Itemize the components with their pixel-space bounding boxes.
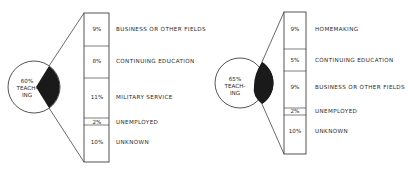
- segment-value: 9%: [291, 84, 300, 90]
- chart-left: 60% TEACH- ING 9% 8% 11% 2% 10% BUSINESS…: [8, 13, 206, 162]
- segment-label: BUSINESS OR OTHER FIELDS: [116, 26, 206, 32]
- segment-value: 8%: [93, 58, 102, 64]
- segment-label: UNKNOWN: [315, 128, 348, 134]
- pie-label-line3: ING: [22, 92, 32, 98]
- pie-label-line1: 60%: [21, 78, 33, 84]
- segment-value: 5%: [291, 57, 300, 63]
- connector-bottom: [49, 108, 84, 162]
- segment-value: 10%: [289, 128, 301, 134]
- segment-value: 9%: [291, 26, 300, 32]
- chart-figure: 60% TEACH- ING 9% 8% 11% 2% 10% BUSINESS…: [0, 0, 408, 175]
- segment-label: UNEMPLOYED: [315, 108, 357, 114]
- segment-value: 10%: [91, 139, 103, 145]
- segment-label: UNEMPLOYED: [116, 119, 158, 125]
- pie-label-line3: ING: [230, 90, 240, 96]
- chart-right: 65% TEACH- ING 9% 5% 9% 2% 10% HOMEMAKIN…: [215, 12, 405, 154]
- segment-label: MILITARY SERVICE: [116, 94, 173, 100]
- connector-top: [49, 13, 84, 66]
- segment-label: UNKNOWN: [116, 139, 149, 145]
- segment-value: 2%: [291, 108, 300, 114]
- segment-label: HOMEMAKING: [315, 26, 358, 32]
- chart-svg: 60% TEACH- ING 9% 8% 11% 2% 10% BUSINESS…: [0, 0, 408, 175]
- pie-label-line2: TEACH-: [16, 85, 38, 91]
- segment-label: BUSINESS OR OTHER FIELDS: [315, 84, 405, 90]
- segment-label: CONTINUING EDUCATION: [315, 57, 394, 63]
- segment-label: CONTINUING EDUCATION: [116, 58, 195, 64]
- segment-value: 9%: [93, 26, 102, 32]
- segment-value: 2%: [93, 119, 102, 125]
- connector-top: [262, 12, 284, 62]
- segment-value: 11%: [91, 94, 103, 100]
- pie-label-line2: TEACH-: [224, 83, 246, 89]
- connector-bottom: [262, 104, 284, 154]
- pie-label-line1: 65%: [229, 76, 241, 82]
